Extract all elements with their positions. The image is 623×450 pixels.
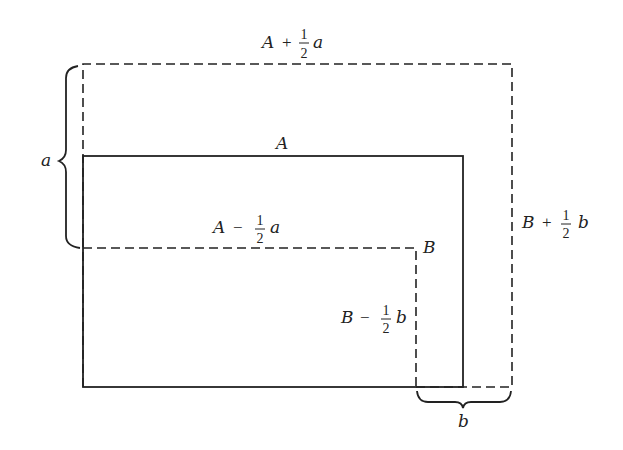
svg-text:2: 2 [257, 231, 264, 246]
label-orig-width: A [274, 133, 288, 153]
bottom-brace [417, 391, 511, 408]
svg-text:2: 2 [301, 46, 308, 61]
label-inner-width: A − 1 2 a [211, 213, 280, 246]
svg-text:−: − [233, 218, 243, 237]
svg-text:b: b [578, 212, 589, 232]
rectangle-diagram: A + 1 2 a A A − 1 2 a B B + 1 2 b B − 1 … [0, 0, 623, 450]
label-brace-b: b [458, 411, 469, 431]
svg-text:−: − [360, 308, 370, 327]
svg-text:+: + [282, 33, 292, 52]
svg-text:B: B [521, 212, 535, 232]
svg-text:B: B [340, 307, 354, 327]
original-solid-rectangle [83, 156, 463, 387]
svg-text:a: a [270, 217, 280, 237]
svg-text:1: 1 [383, 303, 390, 318]
svg-text:A: A [211, 217, 225, 237]
left-brace [59, 66, 80, 248]
svg-text:2: 2 [563, 226, 570, 241]
label-outer-height: B + 1 2 b [521, 208, 589, 241]
svg-text:b: b [396, 307, 407, 327]
label-brace-a: a [41, 150, 51, 170]
svg-text:+: + [542, 213, 552, 232]
outer-dashed-rectangle [83, 64, 512, 387]
svg-text:1: 1 [257, 213, 264, 228]
label-inner-height: B − 1 2 b [340, 303, 407, 336]
svg-text:1: 1 [563, 208, 570, 223]
label-outer-width: A + 1 2 a [260, 27, 323, 61]
svg-text:A: A [260, 32, 274, 52]
svg-text:1: 1 [301, 27, 308, 42]
label-orig-height: B [422, 237, 436, 257]
svg-text:2: 2 [383, 321, 390, 336]
svg-text:a: a [313, 32, 323, 52]
